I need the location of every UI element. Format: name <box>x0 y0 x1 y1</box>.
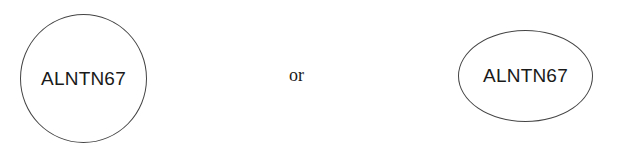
or-separator-text: or <box>289 65 304 86</box>
ellipse-node-label: ALNTN67 <box>483 65 568 87</box>
circle-node: ALNTN67 <box>20 14 147 143</box>
ellipse-node: ALNTN67 <box>458 30 593 122</box>
circle-node-label: ALNTN67 <box>41 68 126 90</box>
